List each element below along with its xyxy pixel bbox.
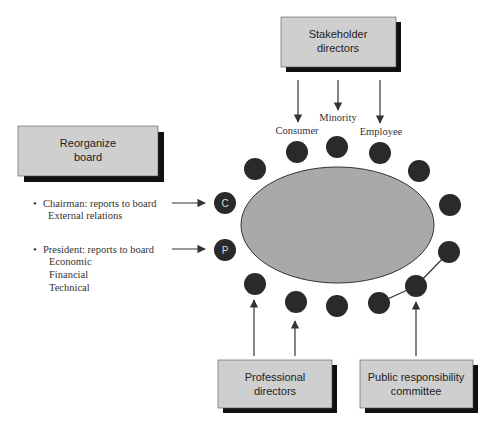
professional-box-line2: directors — [254, 385, 297, 397]
consumer-label: Consumer — [275, 125, 319, 136]
stakeholder-box-line2: directors — [317, 42, 360, 54]
president-bullet: • — [33, 244, 37, 255]
seat — [326, 136, 348, 158]
seat — [286, 141, 308, 163]
minority-label: Minority — [319, 112, 357, 123]
president-description: • President: reports to board Economic F… — [33, 244, 155, 293]
reorganize-box-line1: Reorganize — [60, 137, 116, 149]
seat — [368, 292, 390, 314]
seat — [285, 291, 307, 313]
president-detail-financial: Financial — [49, 269, 88, 280]
board-diagram: Stakeholder directors Consumer Minority … — [0, 0, 494, 433]
public-box-line1: Public responsibility — [368, 371, 465, 383]
president-seat-label: P — [222, 245, 229, 256]
public-responsibility-box: Public responsibility committee — [360, 360, 478, 413]
seat — [244, 273, 266, 295]
board-table — [241, 167, 434, 283]
seat — [408, 160, 430, 182]
professional-box-line1: Professional — [245, 371, 306, 383]
chairman-seat-label: C — [221, 198, 228, 209]
president-detail-technical: Technical — [49, 282, 90, 293]
employee-label: Employee — [360, 126, 403, 137]
chairman-description: • Chairman: reports to board External re… — [33, 198, 157, 221]
seat — [438, 241, 460, 263]
seat — [369, 142, 391, 164]
professional-directors-box: Professional directors — [218, 360, 337, 413]
chairman-bullet: • — [33, 198, 37, 209]
president-detail-economic: Economic — [49, 256, 92, 267]
seat — [405, 275, 427, 297]
stakeholder-directors-box: Stakeholder directors — [281, 17, 401, 72]
seat — [326, 295, 348, 317]
seat — [439, 194, 461, 216]
chairman-title: Chairman: reports to board — [43, 198, 157, 209]
seat — [244, 158, 266, 180]
public-box-line2: committee — [391, 385, 442, 397]
president-title: President: reports to board — [43, 244, 155, 255]
reorganize-box-line2: board — [74, 151, 102, 163]
stakeholder-box-line1: Stakeholder — [309, 28, 368, 40]
reorganize-board-box: Reorganize board — [18, 126, 164, 182]
chairman-detail: External relations — [48, 210, 122, 221]
